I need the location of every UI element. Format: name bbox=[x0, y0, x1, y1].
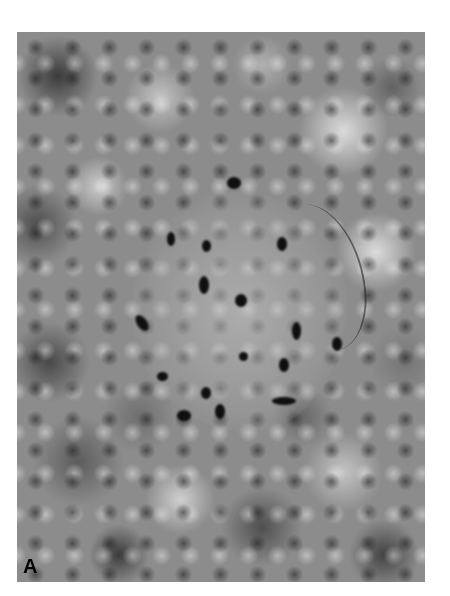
granule bbox=[177, 410, 191, 421]
granule bbox=[277, 237, 287, 251]
granule bbox=[272, 397, 296, 405]
granule bbox=[215, 404, 225, 419]
granule bbox=[199, 276, 209, 294]
granule bbox=[227, 177, 241, 189]
granule bbox=[235, 294, 247, 307]
granule bbox=[279, 358, 289, 372]
granule bbox=[167, 232, 175, 246]
granule bbox=[332, 337, 342, 351]
panel-label: A bbox=[23, 555, 37, 578]
granule bbox=[292, 322, 301, 340]
granule bbox=[239, 352, 248, 361]
micrograph-image: A bbox=[17, 32, 425, 582]
granule bbox=[201, 387, 211, 399]
granule bbox=[202, 240, 211, 252]
granule bbox=[157, 372, 168, 381]
